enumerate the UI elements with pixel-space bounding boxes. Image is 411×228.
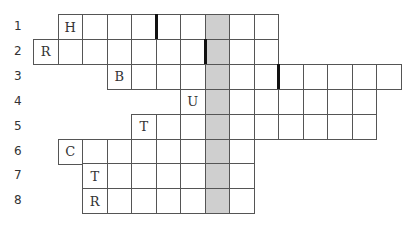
grid-cell[interactable] bbox=[327, 114, 353, 140]
row-number: 3 bbox=[14, 69, 30, 83]
grid-cell[interactable] bbox=[107, 163, 133, 189]
grid-cell[interactable] bbox=[107, 139, 133, 165]
keyword-cell[interactable] bbox=[205, 89, 231, 115]
row-number: 5 bbox=[14, 119, 30, 133]
grid-cell[interactable] bbox=[58, 39, 84, 65]
grid-cell[interactable]: B bbox=[107, 64, 133, 90]
grid-cell[interactable] bbox=[156, 114, 182, 140]
grid-cell[interactable] bbox=[229, 139, 255, 165]
grid-cell[interactable] bbox=[180, 14, 206, 40]
grid-cell[interactable] bbox=[278, 64, 304, 90]
row-number: 1 bbox=[14, 19, 30, 33]
grid-cell[interactable]: T bbox=[82, 163, 108, 189]
grid-cell[interactable] bbox=[229, 114, 255, 140]
keyword-cell[interactable] bbox=[205, 139, 231, 165]
row-number: 7 bbox=[14, 168, 30, 182]
grid-cell[interactable]: C bbox=[58, 139, 84, 165]
grid-cell[interactable]: T bbox=[131, 114, 157, 140]
grid-cell[interactable] bbox=[156, 139, 182, 165]
keyword-cell[interactable] bbox=[205, 114, 231, 140]
grid-cell[interactable] bbox=[229, 39, 255, 65]
grid-cell[interactable] bbox=[131, 188, 157, 214]
word-divider-bar bbox=[204, 39, 207, 65]
grid-cell[interactable]: R bbox=[33, 39, 59, 65]
grid-cell[interactable]: H bbox=[58, 14, 84, 40]
grid-cell[interactable] bbox=[327, 89, 353, 115]
keyword-cell[interactable] bbox=[205, 39, 231, 65]
grid-cell[interactable] bbox=[107, 188, 133, 214]
grid-cell[interactable] bbox=[156, 163, 182, 189]
grid-cell[interactable] bbox=[352, 89, 378, 115]
grid-cell[interactable] bbox=[107, 14, 133, 40]
grid-cell[interactable] bbox=[327, 64, 353, 90]
grid-cell[interactable] bbox=[156, 188, 182, 214]
grid-cell[interactable]: U bbox=[180, 89, 206, 115]
grid-cell[interactable] bbox=[131, 163, 157, 189]
grid-cell[interactable] bbox=[303, 114, 329, 140]
grid-cell[interactable] bbox=[229, 64, 255, 90]
grid-cell[interactable] bbox=[254, 114, 280, 140]
grid-cell[interactable] bbox=[229, 14, 255, 40]
grid-cell[interactable] bbox=[254, 39, 280, 65]
grid-cell[interactable] bbox=[254, 64, 280, 90]
grid-cell[interactable] bbox=[278, 89, 304, 115]
grid-cell[interactable] bbox=[229, 188, 255, 214]
grid-cell[interactable] bbox=[229, 163, 255, 189]
grid-cell[interactable] bbox=[107, 39, 133, 65]
word-divider-bar bbox=[277, 64, 280, 90]
row-number: 4 bbox=[14, 94, 30, 108]
word-divider-bar bbox=[155, 14, 158, 40]
row-number: 8 bbox=[14, 193, 30, 207]
grid-cell[interactable] bbox=[254, 89, 280, 115]
grid-cell[interactable] bbox=[156, 39, 182, 65]
grid-cell[interactable] bbox=[180, 188, 206, 214]
grid-cell[interactable]: R bbox=[82, 188, 108, 214]
keyword-cell[interactable] bbox=[205, 14, 231, 40]
keyword-cell[interactable] bbox=[205, 163, 231, 189]
grid-cell[interactable] bbox=[156, 64, 182, 90]
grid-cell[interactable] bbox=[82, 139, 108, 165]
grid-cell[interactable] bbox=[82, 39, 108, 65]
grid-cell[interactable] bbox=[180, 139, 206, 165]
row-number: 6 bbox=[14, 144, 30, 158]
grid-cell[interactable] bbox=[352, 64, 378, 90]
grid-cell[interactable] bbox=[229, 89, 255, 115]
grid-cell[interactable] bbox=[352, 114, 378, 140]
grid-cell[interactable] bbox=[131, 64, 157, 90]
grid-cell[interactable] bbox=[254, 14, 280, 40]
grid-cell[interactable] bbox=[278, 114, 304, 140]
grid-cell[interactable] bbox=[82, 14, 108, 40]
grid-cell[interactable] bbox=[180, 114, 206, 140]
keyword-cell[interactable] bbox=[205, 64, 231, 90]
keyword-cell[interactable] bbox=[205, 188, 231, 214]
grid-cell[interactable] bbox=[131, 39, 157, 65]
grid-cell[interactable] bbox=[180, 39, 206, 65]
grid-cell[interactable] bbox=[376, 64, 402, 90]
grid-cell[interactable] bbox=[303, 89, 329, 115]
grid-cell[interactable] bbox=[180, 64, 206, 90]
grid-cell[interactable] bbox=[156, 14, 182, 40]
grid-cell[interactable] bbox=[303, 64, 329, 90]
grid-cell[interactable] bbox=[131, 139, 157, 165]
grid-cell[interactable] bbox=[131, 14, 157, 40]
grid-cell[interactable] bbox=[180, 163, 206, 189]
row-number: 2 bbox=[14, 44, 30, 58]
